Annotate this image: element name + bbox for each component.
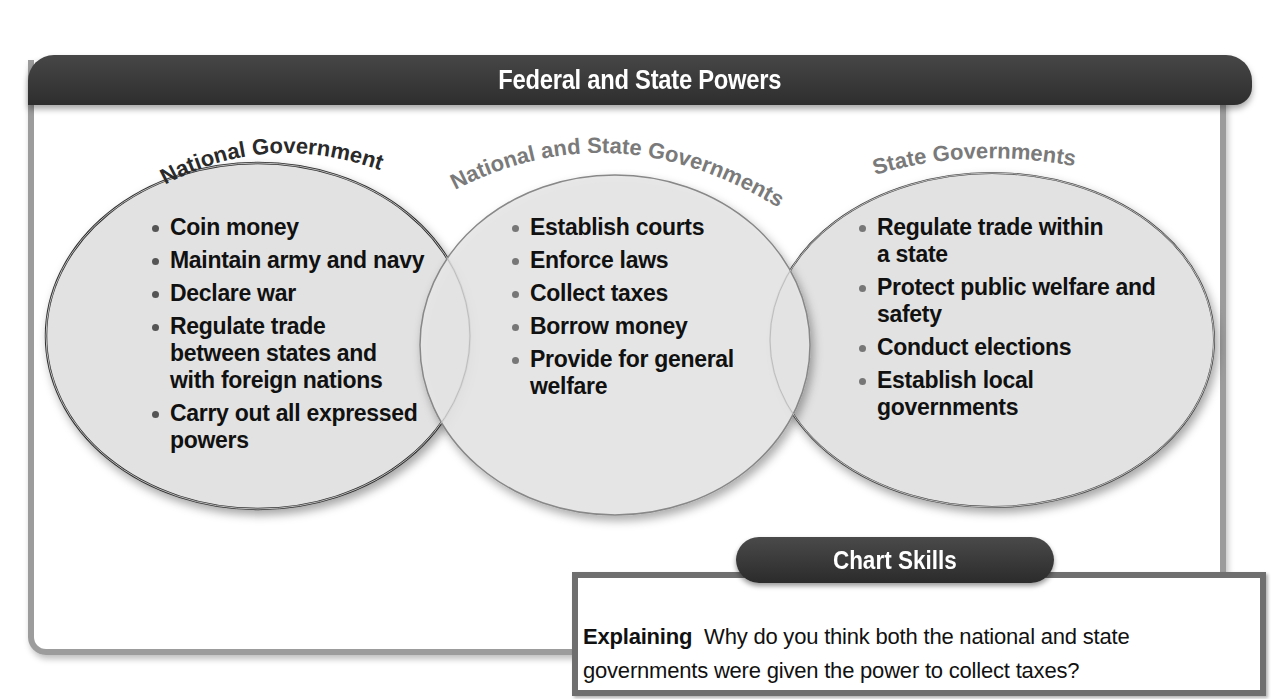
list-item: Establish local governments	[857, 367, 1037, 421]
list-item: Regulate trade between states and with f…	[150, 313, 385, 394]
list-item: Declare war	[150, 280, 440, 307]
chart-skills-question: Explaining Why do you think both the nat…	[583, 620, 1253, 688]
national-powers-list: Coin money Maintain army and navy Declar…	[150, 214, 440, 460]
list-item: Provide for general welfare	[510, 346, 745, 400]
state-powers-list: Regulate trade within a state Protect pu…	[857, 214, 1162, 427]
list-item: Maintain army and navy	[150, 247, 440, 274]
shared-powers-list: Establish courts Enforce laws Collect ta…	[510, 214, 760, 406]
list-item: Coin money	[150, 214, 440, 241]
list-item: Conduct elections	[857, 334, 1162, 361]
skill-label: Explaining	[583, 624, 692, 649]
list-item: Collect taxes	[510, 280, 760, 307]
list-item: Enforce laws	[510, 247, 760, 274]
list-item: Protect public welfare and safety	[857, 274, 1162, 328]
chart-skills-title: Chart Skills	[833, 546, 957, 575]
list-item: Establish courts	[510, 214, 760, 241]
list-item: Borrow money	[510, 313, 760, 340]
list-item: Regulate trade within a state	[857, 214, 1107, 268]
list-item: Carry out all expressed powers	[150, 400, 435, 454]
chart-skills-heading: Chart Skills	[736, 537, 1054, 583]
